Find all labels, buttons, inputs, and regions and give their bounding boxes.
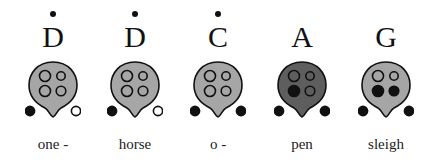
octave-dot-icon: [50, 11, 56, 17]
fingering-column: Apen: [262, 0, 342, 160]
hole-top-left-open: [289, 71, 300, 82]
note-letter: C: [208, 22, 228, 52]
hole-top-right-open: [57, 72, 65, 80]
hole-top-left-open: [40, 71, 51, 82]
hole-top-left-open: [205, 71, 216, 82]
hole-top-right-open: [306, 72, 314, 80]
lyric-text: sleigh: [346, 136, 426, 153]
note-letter: D: [42, 22, 64, 52]
hole-top-right-open: [390, 72, 398, 80]
hole-thumb-right-covered: [404, 106, 413, 115]
hole-bottom-left-covered: [289, 86, 300, 97]
hole-thumb-left-covered: [358, 106, 367, 115]
note-name: G: [346, 14, 426, 52]
hole-top-left-open: [373, 71, 384, 82]
note-name: D: [13, 14, 93, 52]
note-letter: A: [291, 22, 313, 52]
hole-top-right-open: [139, 72, 147, 80]
ocarina-body: [278, 62, 326, 117]
hole-thumb-right-covered: [320, 106, 329, 115]
hole-bottom-left-open: [122, 86, 133, 97]
ocarina-diagram-icon: [190, 60, 246, 120]
hole-top-left-open: [122, 71, 133, 82]
fingering-column: Gsleigh: [346, 0, 426, 160]
hole-bottom-right-open: [221, 86, 231, 96]
ocarina-body: [29, 62, 77, 117]
note-letter: G: [375, 22, 397, 52]
note-name: C: [178, 14, 258, 52]
fingering-column: Dhorse: [95, 0, 175, 160]
hole-thumb-right-open: [153, 106, 162, 115]
lyric-text: horse: [95, 136, 175, 153]
hole-thumb-left-covered: [25, 106, 34, 115]
hole-bottom-right-open: [138, 86, 148, 96]
ocarina-body: [194, 62, 242, 117]
note-name: A: [262, 14, 342, 52]
hole-bottom-right-open: [56, 86, 66, 96]
note-name: D: [95, 14, 175, 52]
lyric-text: o -: [178, 136, 258, 153]
hole-bottom-right-open: [305, 86, 315, 96]
note-letter: D: [124, 22, 146, 52]
ocarina-body: [111, 62, 159, 117]
hole-thumb-left-covered: [274, 106, 283, 115]
hole-thumb-right-open: [71, 106, 80, 115]
hole-bottom-left-open: [40, 86, 51, 97]
octave-dot-icon: [132, 11, 138, 17]
hole-bottom-left-covered: [373, 86, 384, 97]
fingering-column: Co -: [178, 0, 258, 160]
ocarina-diagram-icon: [358, 60, 414, 120]
lyric-text: pen: [262, 136, 342, 153]
ocarina-diagram-icon: [274, 60, 330, 120]
hole-top-right-open: [222, 72, 230, 80]
hole-bottom-right-covered: [389, 86, 399, 96]
octave-dot-icon: [215, 11, 221, 17]
hole-thumb-right-covered: [236, 106, 245, 115]
hole-thumb-left-covered: [190, 106, 199, 115]
hole-thumb-left-covered: [107, 106, 116, 115]
ocarina-diagram-icon: [107, 60, 163, 120]
ocarina-body: [362, 62, 410, 117]
hole-bottom-left-open: [205, 86, 216, 97]
fingering-column: Done -: [13, 0, 93, 160]
lyric-text: one -: [13, 136, 93, 153]
ocarina-diagram-icon: [25, 60, 81, 120]
